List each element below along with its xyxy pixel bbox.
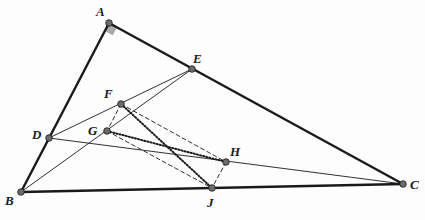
label-a: A <box>96 5 105 18</box>
segment-hj <box>212 162 226 188</box>
segment-gh <box>107 131 226 162</box>
triangle-sides <box>21 23 403 192</box>
segment-fg <box>107 104 121 131</box>
label-j: J <box>207 196 214 209</box>
label-e: E <box>193 52 202 65</box>
point-g <box>104 128 111 135</box>
geometry-diagram: AEFGDBHJC <box>0 0 425 220</box>
point-f <box>118 101 125 108</box>
label-c: C <box>410 178 419 191</box>
vertex-points <box>18 20 407 196</box>
label-d: D <box>32 128 41 141</box>
point-h <box>223 159 230 166</box>
label-b: B <box>5 194 14 207</box>
segment-ac <box>109 23 403 184</box>
diagram-svg <box>0 0 425 220</box>
point-a <box>106 20 113 27</box>
point-e <box>189 66 196 73</box>
label-h: H <box>230 145 240 158</box>
label-g: G <box>88 124 97 137</box>
point-b <box>18 189 25 196</box>
point-d <box>46 135 53 142</box>
point-j <box>209 185 216 192</box>
label-f: F <box>104 87 113 100</box>
point-c <box>400 181 407 188</box>
cevian-lines <box>21 69 403 192</box>
segment-ab <box>21 23 109 192</box>
parallelogram-diagonals <box>107 104 226 188</box>
